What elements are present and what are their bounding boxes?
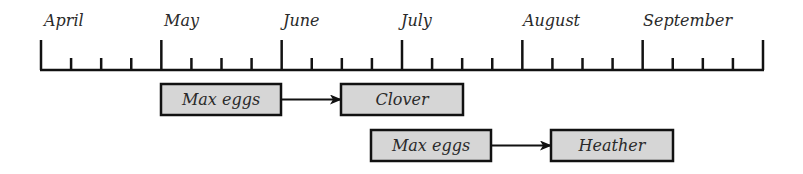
timeline-row-clover: Max eggs Clover xyxy=(161,84,463,115)
month-label-may: May xyxy=(163,11,200,30)
month-label-august: August xyxy=(521,11,581,30)
month-label-july: July xyxy=(398,11,433,30)
month-labels: April May June July August September xyxy=(42,11,733,30)
max-eggs-label-2: Max eggs xyxy=(391,136,470,155)
timeline-diagram: April May June July August September Max… xyxy=(0,0,803,174)
max-eggs-label-1: Max eggs xyxy=(181,90,260,109)
clover-label: Clover xyxy=(375,90,430,109)
heather-label: Heather xyxy=(578,136,647,155)
timeline-row-heather: Max eggs Heather xyxy=(371,130,673,161)
month-label-june: June xyxy=(280,11,320,30)
timeline-axis xyxy=(40,40,764,70)
month-label-april: April xyxy=(42,11,84,30)
month-label-september: September xyxy=(643,11,733,30)
